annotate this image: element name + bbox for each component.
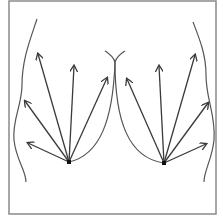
right-origin-point bbox=[162, 161, 166, 165]
cleavage-right-fork bbox=[115, 51, 125, 62]
left-body-outline bbox=[14, 19, 37, 182]
left-arrow-5 bbox=[69, 78, 107, 162]
right-arrow-1 bbox=[127, 79, 164, 163]
cleavage-left-fork bbox=[105, 51, 115, 62]
right-arrow-3 bbox=[164, 55, 195, 163]
right-arrow-4 bbox=[164, 103, 208, 163]
chest-arrow-diagram bbox=[0, 0, 223, 223]
right-arrow-group bbox=[127, 55, 208, 163]
body-outline-curves bbox=[14, 19, 215, 182]
left-arrow-2 bbox=[25, 101, 69, 162]
right-arrow-2 bbox=[159, 66, 164, 163]
right-body-outline bbox=[193, 22, 214, 182]
diagram-frame bbox=[9, 1, 216, 214]
origin-points bbox=[67, 160, 166, 165]
left-origin-point bbox=[67, 160, 71, 164]
diagram-canvas bbox=[0, 0, 223, 223]
left-arrow-4 bbox=[69, 66, 74, 162]
left-arrow-3 bbox=[38, 54, 69, 162]
